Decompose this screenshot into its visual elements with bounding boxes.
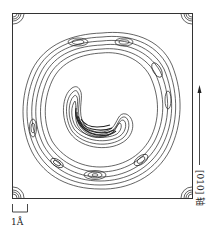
axis-label-text: [010] 轴 — [194, 170, 207, 206]
corner-contours — [13, 14, 192, 198]
scale-bar — [13, 204, 28, 212]
scale-bar-label: 1Å — [11, 217, 23, 227]
axis-arrow — [198, 85, 202, 165]
axis-label: [010] 轴 — [193, 168, 207, 208]
ring-contours — [23, 32, 180, 189]
contour-map — [0, 0, 216, 238]
crescent-contours — [63, 87, 132, 148]
